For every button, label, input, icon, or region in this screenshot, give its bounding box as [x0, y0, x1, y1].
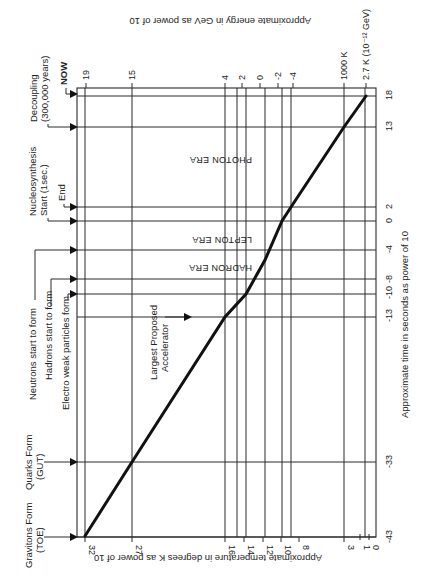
time-tick: -43 — [384, 530, 394, 543]
energy-axis-label: Approximate energy in GeV as power of 10 — [129, 16, 311, 27]
energy-tick-marks — [86, 83, 366, 88]
event-arrows — [35, 88, 192, 541]
energy-tick: 1000 K — [339, 51, 349, 80]
quarks-sub-label: (GUT) — [34, 454, 45, 480]
decoupling-label: Decoupling — [28, 74, 39, 122]
gravitons-sub-label: (TOE) — [34, 527, 45, 553]
time-tick: -13 — [384, 309, 394, 322]
time-tick: -10 — [384, 286, 394, 299]
electroweak-label: Electro weak particles form — [60, 296, 71, 410]
temperature-tick-marks — [85, 534, 369, 542]
lepton-era-label: LEPTON ERA — [192, 235, 252, 245]
energy-tick: 0 — [255, 75, 265, 80]
hadron-era-label: HADRON ERA — [189, 263, 252, 273]
quarks-label: Quarks Form — [23, 434, 34, 490]
time-tick: -8 — [384, 275, 394, 283]
temp-tick: 0 — [371, 545, 381, 550]
photon-era-label: PHOTON ERA — [190, 155, 252, 165]
energy-tick: -4 — [288, 72, 298, 80]
time-tick: 0 — [384, 218, 394, 223]
temp-tick: 1 — [362, 545, 372, 550]
time-tick: -4 — [384, 245, 394, 253]
temp-tick: 8 — [301, 545, 311, 550]
nucleosynthesis-label: Nucleosynthesis — [27, 147, 38, 216]
time-tick: 18 — [384, 90, 394, 100]
nucleosynthesis-start-label: Start (1sec.) — [38, 164, 49, 216]
time-tick: 13 — [384, 121, 394, 131]
energy-tick: 4 — [220, 75, 230, 80]
energy-tick: 19 — [81, 70, 91, 80]
energy-tick: -2 — [273, 72, 283, 80]
accelerator-sub-label: Accelerator — [159, 324, 170, 372]
cosmic-history-diagram: 32 27 16 14 12 10 8 3 1 0 Approximate te… — [0, 0, 425, 583]
gravitons-label: Gravitons Form — [23, 502, 34, 568]
now-label: NOW — [58, 62, 69, 85]
energy-tick: 15 — [127, 70, 137, 80]
nucleosynthesis-end-label: End — [56, 184, 67, 201]
decoupling-sub-label: (300,000 years) — [39, 55, 50, 122]
energy-tick: 2 — [237, 75, 247, 80]
time-tick: 2 — [384, 204, 394, 209]
accelerator-label: Largest Proposed — [148, 305, 159, 380]
time-axis-label: Approximate time in seconds as power of … — [399, 231, 410, 418]
energy-tick: 2.7 K (10⁻¹² GeV) — [361, 9, 371, 80]
temperature-axis-label: Approximate temperature in degrees K as … — [94, 553, 322, 564]
neutrons-label: Neutrons start to form — [27, 308, 38, 400]
time-tick-labels: 18 13 2 0 -4 -8 -10 -13 -33 -43 — [384, 90, 394, 543]
temp-tick: 3 — [346, 545, 356, 550]
hadrons-label: Hadrons start to form — [43, 291, 54, 380]
time-tick: -33 — [384, 455, 394, 468]
event-labels: NOW Decoupling (300,000 years) Nucleosyn… — [23, 55, 170, 568]
